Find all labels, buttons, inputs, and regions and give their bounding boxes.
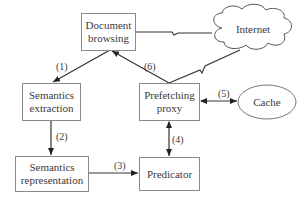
- document-browsing-node: Document browsing: [81, 13, 136, 51]
- edge-1-label: (1): [56, 61, 68, 72]
- internet-label: Internet: [236, 23, 270, 35]
- semantics-representation-line1: Semantics: [21, 161, 83, 174]
- semantics-representation-node: Semantics representation: [15, 156, 89, 192]
- semantics-extraction-line2: extraction: [29, 102, 74, 115]
- prefetching-proxy-node: Prefetching proxy: [139, 83, 200, 121]
- edge-3-label: (3): [114, 160, 126, 171]
- cache-node: Cache: [238, 92, 296, 112]
- link-proxy-internet: [169, 50, 240, 83]
- internet-node: Internet: [220, 18, 286, 40]
- prefetching-proxy-line2: proxy: [144, 102, 195, 115]
- link-browsing-internet: [135, 32, 212, 35]
- edge-6-label: (6): [144, 61, 156, 72]
- edge-6: [112, 51, 169, 83]
- edge-4-label: (4): [172, 134, 184, 145]
- semantics-extraction-node: Semantics extraction: [22, 83, 81, 121]
- edge-2-label: (2): [56, 131, 68, 142]
- semantics-representation-line2: representation: [21, 174, 83, 187]
- predicator-label: Predicator: [147, 168, 192, 181]
- cache-label: Cache: [253, 96, 280, 108]
- document-browsing-line2: browsing: [86, 32, 132, 45]
- semantics-extraction-line1: Semantics: [29, 89, 74, 102]
- edge-5-label: (5): [218, 88, 230, 99]
- prefetching-proxy-line1: Prefetching: [144, 89, 195, 102]
- document-browsing-line1: Document: [86, 19, 132, 32]
- predicator-node: Predicator: [139, 157, 200, 191]
